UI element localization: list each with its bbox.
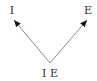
diagram-canvas: I E I E <box>0 0 97 81</box>
node-label-top-left: I <box>10 4 14 17</box>
node-label-top-right: E <box>84 4 92 17</box>
node-label-bottom: I E <box>42 67 58 80</box>
diagram-svg: I E I E <box>0 0 97 81</box>
edge-bottom-to-left <box>14 20 50 63</box>
edge-bottom-to-right <box>50 20 87 63</box>
